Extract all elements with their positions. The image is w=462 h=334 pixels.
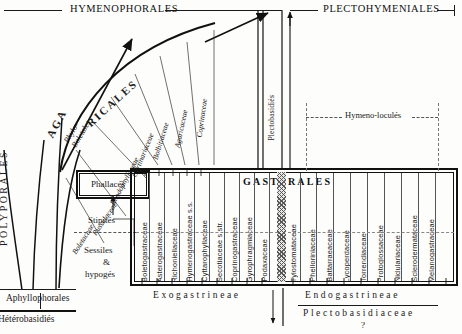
col-sep: [333, 173, 334, 281]
col-sep: [269, 173, 270, 281]
col-sep: [149, 173, 150, 281]
figure-canvas: HYMENOPHORALES PLECTOHYMENIALES: [0, 0, 462, 334]
hymeno-locules-left-bound: [306, 103, 307, 171]
col-sep: [164, 173, 165, 281]
plectobasidiaceae-label: Plectobasidiaceae: [303, 308, 415, 318]
col-sep: [316, 173, 317, 281]
col-sep: [254, 173, 255, 281]
plectobasidies-label: Plectobasidiés: [267, 95, 276, 141]
endogastrineae-columns: Phelloriniaceae Battarraeaceae Lycoperda…: [305, 186, 455, 282]
aphyllophorales-divider: [40, 293, 41, 309]
transition-hatch-column: [277, 172, 286, 282]
endogastrineae-bracket: [298, 305, 438, 306]
hymeno-locules-rule-left: [306, 117, 342, 118]
col-sep: [209, 173, 210, 281]
polyporales-text: POLYPORALES: [0, 150, 9, 246]
amp-label: &: [103, 257, 110, 267]
family-column: Asterogastraceae: [155, 222, 164, 282]
aphyllophorales-label: Aphyllophorales: [6, 293, 69, 303]
col-sep: [224, 173, 225, 281]
hypogeous-level-dashline-left: [136, 232, 278, 233]
hymeno-locules-label: Hymeno-loculés: [345, 110, 401, 120]
col-sep: [367, 173, 368, 281]
col-sep: [401, 173, 402, 281]
plectobasidiaceae-query: ?: [361, 320, 365, 330]
heterobasidies-label: Hétérobasidiés: [0, 314, 54, 324]
family-column: Hymenogastraceae s.s.: [185, 201, 194, 282]
hypogeous-level-dashline-right: [288, 232, 454, 233]
label-polyporales: POLYPORALES: [0, 150, 9, 246]
col-sep: [194, 173, 195, 281]
col-sep: [350, 173, 351, 281]
stipites-sessiles-divider: [74, 232, 136, 233]
col-sep: [418, 173, 419, 281]
exogastrineae-label: Exogastrineae: [153, 290, 241, 300]
phallaces-label: Phallacés: [91, 179, 125, 189]
col-sep: [239, 173, 240, 281]
endogastrineae-label: Endogastrineae: [305, 290, 400, 300]
family-column: Gyrophragmiaceae: [245, 217, 254, 282]
col-sep: [384, 173, 385, 281]
heterobasidies-rule: [0, 310, 76, 312]
stipites-label: Stipités: [88, 215, 115, 225]
hymeno-locules-rule-right: [412, 117, 438, 118]
aphyllophorales-top-rule: [0, 289, 76, 290]
family-column: Coprinogastraceae: [230, 217, 239, 282]
exogastrineae-columns: Boletogastraceae Asterogastraceae Richon…: [138, 186, 278, 282]
family-column: Richoniellaceae: [170, 228, 179, 282]
col-sep: [179, 173, 180, 281]
family-column: Cyttarophyllaceae: [200, 220, 209, 282]
family-column: Podaxaceae: [260, 239, 269, 282]
col-sep: [435, 173, 436, 281]
sessiles-label: Sessiles: [84, 245, 113, 255]
family-column: Secotiaceae s.str.: [215, 221, 224, 282]
col-sep: [300, 173, 301, 281]
hymeno-locules-right-bound: [438, 103, 439, 171]
